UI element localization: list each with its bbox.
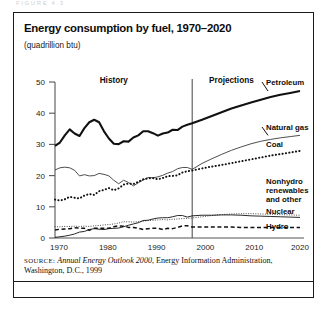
y-tick-label: 10 (36, 203, 45, 212)
series-label-nuclear: Nuclear (266, 207, 295, 216)
x-tick-label: 1990 (148, 243, 166, 252)
y-tick-label: 50 (36, 78, 45, 87)
x-tick-label: 2000 (197, 243, 215, 252)
page-title: Energy consumption by fuel, 1970–2020 (24, 22, 231, 34)
series-label-nonhydro-2: renewables (266, 186, 309, 195)
page-artifact-text: FIGURE 4.3 (16, 0, 65, 6)
annotation-history: History (100, 76, 129, 85)
source-title: Annual Energy Outlook 2000 (57, 256, 152, 265)
x-tick-label: 1980 (99, 243, 117, 252)
series-label-natural-gas: Natural gas (266, 123, 309, 132)
y-axis-labels: 50 40 30 20 10 0 (36, 78, 45, 243)
x-tick-label: 2020 (291, 243, 309, 252)
series-label-petroleum: Petroleum (266, 78, 304, 87)
source-note: SOURCE: Annual Energy Outlook 2000, Ener… (24, 256, 305, 277)
annotation-projections: Projections (209, 76, 254, 85)
chart-plot-area: 50 40 30 20 10 0 1970 1980 1990 2000 201… (14, 57, 315, 252)
series-path-natural-gas (55, 135, 300, 186)
series-label-nonhydro-3: and other (266, 195, 302, 204)
series-label-nonhydro-1: Nonhydro (266, 177, 303, 186)
x-axis-labels: 1970 1980 1990 2000 2010 2020 (50, 243, 309, 252)
data-series-layer (55, 91, 300, 237)
y-tick-label: 0 (41, 234, 46, 243)
series-label-coal: Coal (266, 140, 283, 149)
series-path-petroleum (55, 91, 300, 146)
y-tick-label: 20 (36, 172, 45, 181)
y-axis-ticks (49, 82, 55, 238)
series-path-nuclear (55, 215, 300, 237)
y-tick-label: 30 (36, 140, 45, 149)
source-label: SOURCE: (24, 257, 55, 264)
figure-container: Energy consumption by fuel, 1970–2020 (q… (13, 12, 314, 298)
y-tick-label: 40 (36, 109, 45, 118)
footer-rule (14, 281, 313, 282)
line-chart-svg: 50 40 30 20 10 0 1970 1980 1990 2000 201… (14, 57, 315, 252)
series-label-hydro: Hydro (266, 222, 289, 231)
figure-subtitle: (quadrillion btu) (24, 41, 80, 50)
x-tick-label: 2010 (245, 243, 263, 252)
x-tick-label: 1970 (50, 243, 68, 252)
